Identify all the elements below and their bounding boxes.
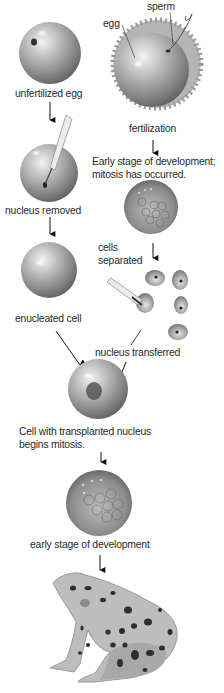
label-nucleus-removed: nucleus removed [5, 204, 81, 217]
label-egg: egg [103, 17, 120, 30]
label-fertilization: fertilization [129, 122, 176, 135]
separated-cells [107, 270, 188, 340]
unfertilized-egg-cell [19, 22, 81, 84]
label-transplanted-2: begins mitosis. [19, 438, 85, 451]
label-cells-separated-2: separated [98, 254, 142, 267]
label-transplanted-1: Cell with transplanted nucleus [19, 425, 151, 438]
transplanted-cell [68, 359, 128, 419]
arrow-enucleated-to-transplant [56, 331, 80, 365]
label-cells-separated-1: cells [98, 241, 118, 254]
arrow-separated-to-label [131, 330, 141, 345]
nucleus-removed-cell [20, 115, 78, 202]
label-unfertilized-egg: unfertilized egg [15, 87, 82, 100]
label-early-stage: early stage of development [30, 538, 150, 551]
label-early-stage-mitosis-2: mitosis has occurred. [92, 168, 186, 181]
label-nucleus-transferred: nucleus transferred [95, 346, 180, 359]
adult-frog [50, 573, 177, 682]
label-early-stage-mitosis-1: Early stage of development; [92, 155, 215, 168]
label-enucleated-cell: enucleated cell [15, 312, 81, 325]
fertilized-egg-cell [113, 12, 201, 108]
donor-embryo [124, 180, 178, 234]
label-sperm: sperm [147, 0, 175, 13]
early-embryo [66, 470, 132, 536]
enucleated-cell [21, 242, 77, 298]
